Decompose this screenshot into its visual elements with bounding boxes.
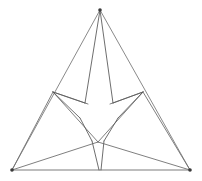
star-edge-shoulder-left-to-base	[92, 141, 99, 170]
star-edge-mid-left-to-notch-lower-left	[53, 92, 80, 118]
star-edge-notch-lower-left-to-shoulder	[80, 118, 92, 141]
star-edge-mid-right-to-notch-lower-right	[118, 92, 143, 118]
three-pointed-concave-star	[53, 10, 143, 170]
vertex-markers-group	[10, 8, 192, 172]
geometric-diagram-canvas	[0, 0, 202, 181]
right-edge	[100, 10, 190, 170]
vertex-dot-apex	[98, 8, 102, 12]
outer-triangle-group	[12, 10, 190, 170]
vertex-dot-bottom-left	[10, 168, 14, 172]
vertex-dot-bottom-right	[188, 168, 192, 172]
triangle-star-figure	[0, 0, 202, 181]
star-edge-shoulder-right-to-base	[101, 141, 104, 170]
medial-triangle-group	[53, 92, 143, 142]
star-edge-notch-lower-right-to-shoulder	[104, 118, 118, 141]
star-edge-apex-to-notch-right	[100, 10, 113, 103]
cevian-group	[12, 92, 190, 170]
